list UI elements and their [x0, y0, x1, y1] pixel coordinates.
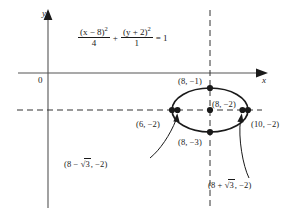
equation-equals-one: = 1 [156, 33, 168, 43]
y-axis-label: y [42, 8, 46, 18]
ellipse-figure: (x − 8)2 4 + (y + 2)2 1 = 1 y x 0 (8, −1… [0, 0, 300, 218]
equation-first-fraction: (x − 8)2 4 [78, 27, 110, 49]
label-top-covertex: (8, −1) [178, 76, 202, 86]
radical-left-focus: √3 [81, 159, 91, 169]
point-right-vertex [245, 107, 251, 113]
point-top-covertex [207, 85, 213, 91]
label-left-focus: (8 − √3, −2) [64, 159, 107, 169]
origin-label: 0 [38, 75, 43, 85]
point-left-vertex [169, 107, 175, 113]
equation-denominator-2: 1 [133, 38, 142, 48]
right-focus-arrowhead [237, 113, 243, 122]
label-right-vertex: (10, −2) [251, 119, 279, 129]
label-left-vertex: (6, −2) [136, 119, 160, 129]
ellipse-equation: (x − 8)2 4 + (y + 2)2 1 = 1 [77, 27, 170, 49]
point-right-focus [239, 107, 245, 113]
equation-plus-sign: + [113, 33, 118, 43]
equation-numerator-2: (y + 2)2 [121, 27, 153, 37]
label-bottom-covertex: (8, −3) [178, 137, 202, 147]
point-left-focus [174, 107, 180, 113]
radical-right-focus: √3 [225, 180, 235, 190]
point-bottom-covertex [207, 129, 213, 135]
equation-denominator-1: 4 [90, 38, 99, 48]
equation-numerator-1: (x − 8)2 [78, 27, 110, 37]
label-right-focus: (8 + √3, −2) [208, 180, 251, 190]
right-focus-leader [237, 113, 249, 178]
x-axis-label: x [262, 75, 266, 85]
label-center: (8, −2) [212, 99, 236, 109]
equation-second-fraction: (y + 2)2 1 [121, 27, 153, 49]
